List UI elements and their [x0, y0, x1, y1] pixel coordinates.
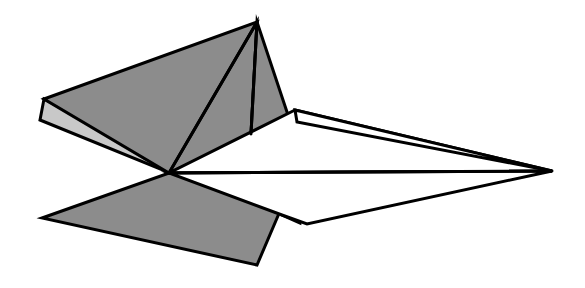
- figure-canvas: [0, 0, 585, 288]
- fuselage-center-line: [169, 171, 552, 173]
- paper-airplane-drawing: [0, 0, 585, 288]
